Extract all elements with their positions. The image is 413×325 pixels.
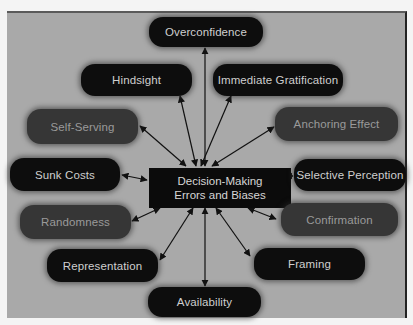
- node-label: Selective Perception: [297, 169, 404, 181]
- node-label: Hindsight: [112, 74, 161, 86]
- node-availability: Availability: [148, 287, 261, 317]
- node-self-serving: Self-Serving: [27, 109, 138, 144]
- node-selective-perception: Selective Perception: [294, 159, 406, 191]
- node-confirmation: Confirmation: [281, 203, 398, 236]
- node-sunk-costs: Sunk Costs: [10, 158, 120, 191]
- node-label: Anchoring Effect: [294, 118, 380, 130]
- node-hindsight: Hindsight: [81, 64, 192, 96]
- node-anchoring-effect: Anchoring Effect: [275, 107, 398, 141]
- node-label: Immediate Gratification: [218, 74, 339, 86]
- central-topic-line2: Errors and Biases: [174, 188, 265, 202]
- central-topic-line1: Decision-Making: [177, 174, 262, 188]
- node-label: Availability: [177, 296, 232, 308]
- node-immediate-gratification: Immediate Gratification: [213, 64, 343, 96]
- central-topic-box: Decision-Making Errors and Biases: [149, 168, 291, 208]
- node-label: Sunk Costs: [35, 169, 95, 181]
- node-label: Framing: [288, 258, 331, 270]
- node-label: Confirmation: [306, 214, 372, 226]
- node-framing: Framing: [254, 248, 365, 280]
- node-label: Overconfidence: [165, 26, 247, 38]
- node-label: Representation: [63, 260, 142, 272]
- node-randomness: Randomness: [20, 205, 131, 239]
- node-overconfidence: Overconfidence: [149, 17, 263, 47]
- node-representation: Representation: [47, 249, 158, 282]
- node-label: Randomness: [41, 216, 110, 228]
- node-label: Self-Serving: [51, 121, 115, 133]
